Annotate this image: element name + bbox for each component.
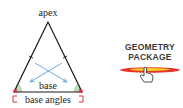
right-bracket bbox=[79, 96, 83, 102]
apex-label: apex bbox=[39, 7, 58, 18]
base-label: base bbox=[39, 80, 57, 91]
isosceles-triangle-diagram: apex base base angles bbox=[0, 0, 110, 108]
logo-line2: PACKAGE bbox=[118, 52, 182, 62]
swoosh-yellow bbox=[130, 68, 170, 71]
base-angles-label: base angles bbox=[25, 94, 71, 105]
left-bracket bbox=[13, 96, 17, 102]
left-angle-dot bbox=[13, 89, 17, 93]
right-angle-dot bbox=[79, 89, 83, 93]
geometry-package-logo[interactable]: GEOMETRY PACKAGE bbox=[118, 38, 182, 86]
logo-line1: GEOMETRY bbox=[118, 42, 182, 52]
swoosh-graphic bbox=[118, 62, 182, 86]
